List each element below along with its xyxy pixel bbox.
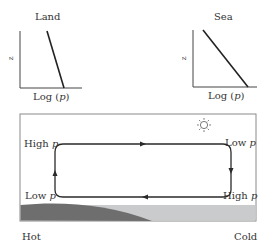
label-top-right-low-p: Low p: [225, 138, 256, 148]
label-var: p: [249, 137, 255, 148]
land-title: Land: [35, 12, 60, 22]
diagram-graphics: [0, 0, 268, 250]
land-profile-line: [47, 31, 64, 88]
circulation-diagram: [20, 114, 256, 221]
sea-profile-chart: [193, 30, 257, 87]
label-var: p: [49, 190, 55, 201]
label-bottom-left-low-p: Low p: [25, 191, 56, 201]
label-var: p: [52, 138, 58, 149]
sea-x-label: Log (p): [208, 91, 244, 101]
cold-label: Cold: [234, 232, 257, 242]
label-text: Low: [25, 190, 46, 201]
land-y-label: z: [8, 57, 15, 61]
sea-profile-line: [203, 30, 248, 87]
land-x-label-prefix: Log (: [33, 91, 59, 102]
label-top-left-high-p: High p: [24, 139, 58, 149]
label-text: Low: [225, 137, 246, 148]
land-x-label-suffix: ): [66, 91, 70, 102]
sea-title: Sea: [214, 12, 233, 22]
label-text: High: [24, 138, 49, 149]
sea-x-label-prefix: Log (: [208, 90, 234, 101]
land-x-label: Log (p): [33, 92, 69, 102]
label-text: High: [223, 190, 248, 201]
label-var: p: [251, 190, 257, 201]
hot-label: Hot: [22, 232, 41, 242]
sea-x-label-suffix: ): [241, 90, 245, 101]
sea-y-label: z: [181, 57, 188, 61]
land-profile-chart: [20, 31, 82, 88]
label-bottom-right-high-p: High p: [223, 191, 257, 201]
